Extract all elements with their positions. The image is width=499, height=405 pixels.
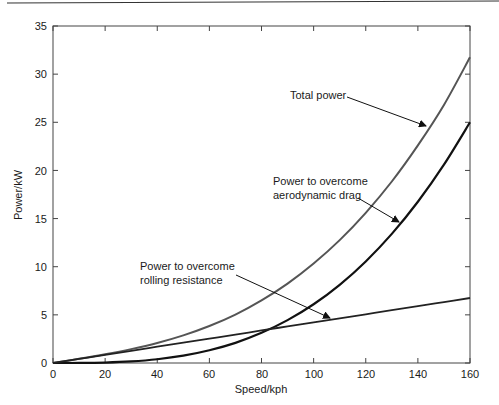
rolling-arrow [236, 275, 330, 318]
y-tick-label: 20 [35, 165, 47, 177]
rolling-resistance-line [53, 298, 470, 363]
total-power-curve [53, 57, 470, 363]
y-tick-label: 0 [41, 357, 47, 369]
axis-ticks [53, 26, 470, 363]
aerodynamic-drag-curve [53, 122, 470, 363]
y-tick-label: 30 [35, 68, 47, 80]
y-tick-label: 10 [35, 261, 47, 273]
x-tick-label: 140 [409, 368, 427, 380]
drag-label-line2: aerodynamic drag [273, 189, 361, 201]
x-tick-label: 40 [151, 368, 163, 380]
x-tick-label: 100 [305, 368, 323, 380]
total-power-arrow [347, 97, 426, 126]
plot-frame [53, 26, 470, 363]
page-top-rule [7, 1, 499, 3]
x-tick-labels: 0 20 40 60 80 100 120 140 160 [50, 368, 479, 380]
x-tick-label: 20 [99, 368, 111, 380]
x-tick-label: 60 [203, 368, 215, 380]
y-axis-title: Power/kW [12, 169, 24, 220]
x-tick-label: 120 [357, 368, 375, 380]
x-axis-title: Speed/kph [235, 383, 288, 395]
rolling-label-line1: Power to overcome [140, 260, 235, 272]
y-tick-label: 25 [35, 116, 47, 128]
chart-canvas: 0 20 40 60 80 100 120 140 160 0 5 10 15 … [0, 0, 499, 405]
y-tick-label: 35 [35, 20, 47, 32]
y-tick-labels: 0 5 10 15 20 25 30 35 [35, 20, 47, 369]
total-power-label: Total power [290, 89, 347, 101]
y-tick-label: 15 [35, 213, 47, 225]
rolling-label-line2: rolling resistance [140, 274, 223, 286]
drag-label-line1: Power to overcome [273, 175, 368, 187]
drag-arrow [358, 198, 399, 222]
x-tick-label: 80 [256, 368, 268, 380]
x-tick-label: 160 [461, 368, 479, 380]
x-tick-label: 0 [50, 368, 56, 380]
y-tick-label: 5 [41, 309, 47, 321]
